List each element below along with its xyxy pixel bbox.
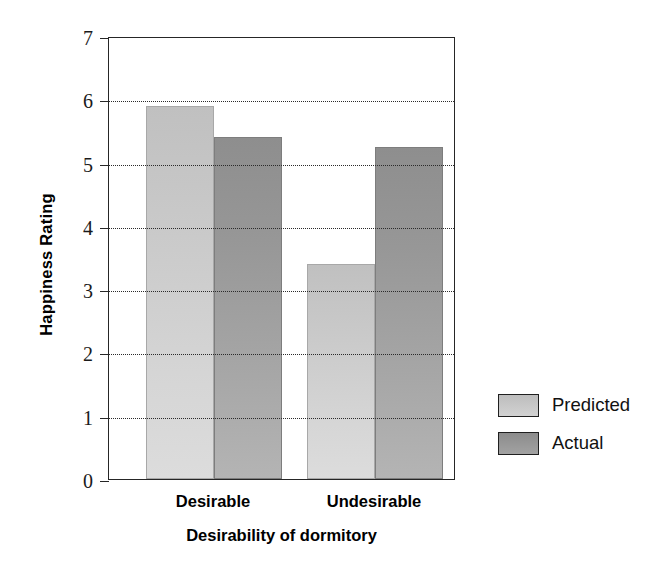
y-axis-tick (100, 481, 109, 482)
plot-inner (109, 38, 454, 479)
y-axis-tick (100, 38, 109, 39)
bar-desirable-actual (214, 137, 282, 479)
y-axis-tick (100, 101, 109, 102)
plot-area: 01234567 (108, 37, 455, 480)
y-axis-tick-label: 0 (59, 470, 93, 493)
y-axis-tick-label: 1 (59, 406, 93, 429)
legend-item-actual: Actual (498, 424, 630, 462)
y-axis-tick-label: 3 (59, 280, 93, 303)
gridline (109, 101, 454, 102)
legend-swatch-predicted (498, 394, 539, 417)
y-axis-tick-label: 5 (59, 153, 93, 176)
legend-label-predicted: Predicted (552, 394, 630, 416)
x-axis-category-label: Undesirable (327, 492, 421, 511)
bar-chart-figure: Happiness Rating 01234567 Desirability o… (0, 0, 649, 578)
legend-label-actual: Actual (552, 432, 603, 454)
x-axis-category-label: Desirable (176, 492, 250, 511)
legend-item-predicted: Predicted (498, 386, 630, 424)
x-axis-title: Desirability of dormitory (108, 526, 455, 545)
gridline (109, 228, 454, 229)
gridline (109, 418, 454, 419)
y-axis-tick-label: 6 (59, 90, 93, 113)
bar-undesirable-actual (375, 147, 443, 479)
y-axis-tick-label: 7 (59, 27, 93, 50)
y-axis-title: Happiness Rating (37, 145, 56, 385)
y-axis-tick (100, 418, 109, 419)
y-axis-tick (100, 291, 109, 292)
y-axis-tick (100, 165, 109, 166)
chart-legend: Predicted Actual (498, 386, 630, 462)
gridline (109, 291, 454, 292)
y-axis-tick-label: 4 (59, 216, 93, 239)
y-axis-tick (100, 228, 109, 229)
gridline (109, 354, 454, 355)
legend-swatch-actual (498, 432, 539, 455)
y-axis-tick (100, 354, 109, 355)
bar-undesirable-predicted (307, 264, 375, 479)
gridline (109, 165, 454, 166)
bar-desirable-predicted (146, 106, 214, 479)
y-axis-tick-label: 2 (59, 343, 93, 366)
